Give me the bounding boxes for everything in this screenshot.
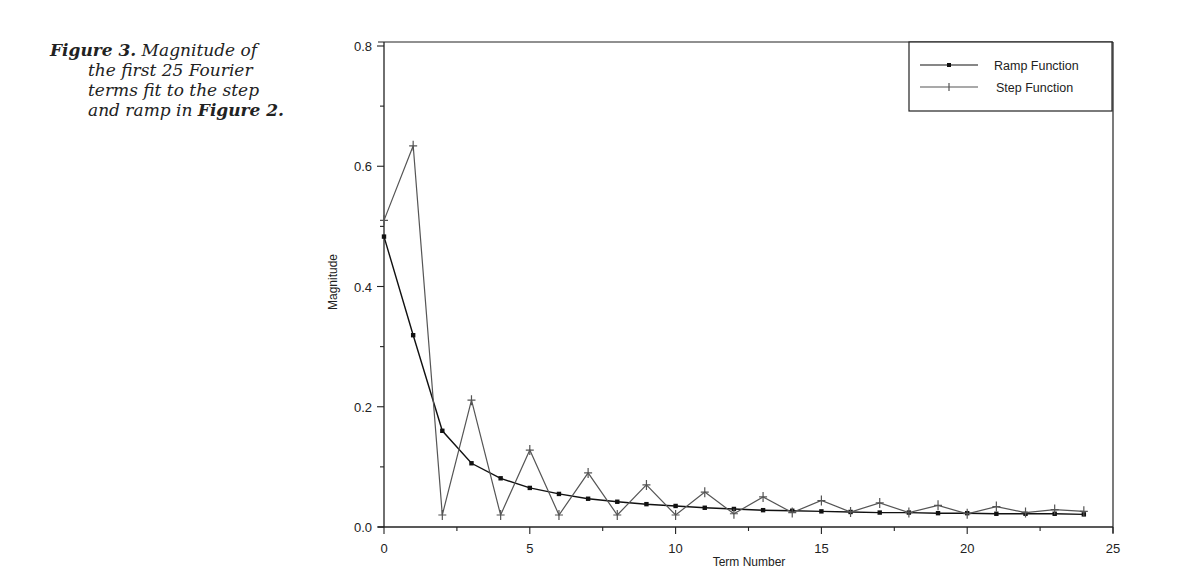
plus-marker-icon (847, 507, 855, 517)
plus-marker-icon (817, 496, 825, 506)
plus-marker-icon (934, 500, 942, 510)
x-tick-label: 25 (1106, 541, 1120, 556)
square-marker-icon (644, 502, 648, 506)
series-line (384, 237, 1084, 515)
square-marker-icon (936, 511, 940, 515)
square-marker-icon (382, 234, 386, 238)
square-marker-icon (878, 510, 882, 514)
y-tick-label: 0.8 (354, 39, 372, 54)
data-series (380, 141, 1088, 520)
y-tick-label: 0.4 (354, 280, 372, 295)
plus-marker-icon (1051, 505, 1059, 515)
plus-marker-icon (438, 510, 446, 520)
plus-marker-icon (759, 492, 767, 502)
plus-marker-icon (963, 509, 971, 519)
x-tick-label: 0 (380, 541, 387, 556)
square-marker-icon (615, 500, 619, 504)
square-marker-icon (761, 508, 765, 512)
x-tick-label: 10 (668, 541, 682, 556)
plus-marker-icon (788, 508, 796, 518)
square-marker-icon (819, 509, 823, 513)
plus-marker-icon (1022, 508, 1030, 518)
legend-box (909, 42, 1112, 111)
square-marker-icon (586, 497, 590, 501)
x-tick-label: 15 (814, 541, 828, 556)
legend-label-step: Step Function (996, 81, 1073, 95)
y-axis-title: Magnitude (326, 254, 340, 310)
series-step-function (380, 141, 1088, 520)
square-marker-icon (469, 461, 473, 465)
plus-marker-icon (876, 498, 884, 508)
legend-label-ramp: Ramp Function (994, 59, 1079, 73)
plus-marker-icon (467, 395, 475, 405)
y-tick-label: 0.0 (354, 520, 372, 535)
square-marker-icon (498, 476, 502, 480)
plus-marker-icon (409, 141, 417, 151)
line-chart: 05101520250.00.20.40.60.8 Term Number Ma… (0, 0, 1180, 572)
x-axis-title: Term Number (713, 555, 786, 569)
square-marker-icon (703, 506, 707, 510)
plus-marker-icon (380, 215, 388, 225)
plus-marker-icon (730, 509, 738, 519)
legend: Ramp Function Step Function (909, 42, 1112, 111)
y-tick-label: 0.6 (354, 159, 372, 174)
x-tick-label: 20 (960, 541, 974, 556)
plus-marker-icon (992, 502, 1000, 512)
axis-ticks: 05101520250.00.20.40.60.8 (354, 39, 1120, 556)
plus-marker-icon (905, 508, 913, 518)
series-ramp-function (382, 234, 1086, 516)
plus-marker-icon (701, 487, 709, 497)
plot-frame (378, 42, 1113, 533)
x-tick-label: 5 (526, 541, 533, 556)
square-marker-icon (440, 429, 444, 433)
square-marker-icon (994, 512, 998, 516)
plus-marker-icon (526, 445, 534, 455)
square-marker-icon (557, 492, 561, 496)
square-marker-icon (673, 504, 677, 508)
series-line (384, 146, 1084, 515)
y-tick-label: 0.2 (354, 400, 372, 415)
square-marker-icon (528, 486, 532, 490)
plus-marker-icon (497, 510, 505, 520)
square-marker-icon (947, 63, 951, 67)
square-marker-icon (411, 333, 415, 337)
